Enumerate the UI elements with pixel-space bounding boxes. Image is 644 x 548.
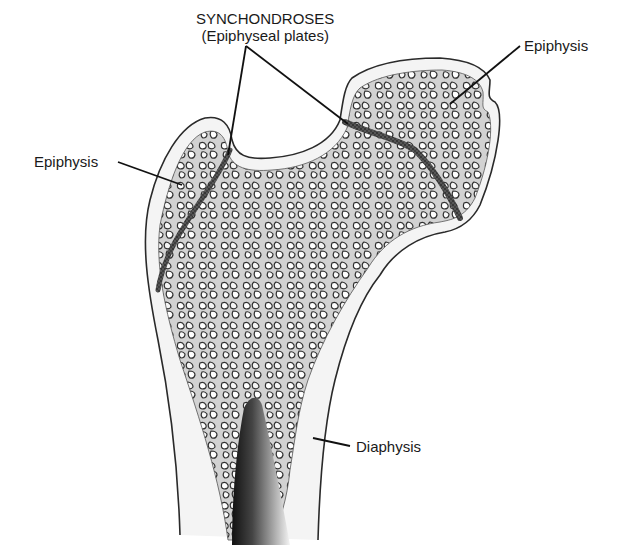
diaphysis-label: Diaphysis xyxy=(356,438,421,455)
leader-synchondroses-left xyxy=(228,46,246,155)
bone-diagram: SYNCHONDROSES (Epiphyseal plates) Epiphy… xyxy=(0,0,644,548)
synchondroses-label: SYNCHONDROSES (Epiphyseal plates) xyxy=(196,10,334,44)
epiphysis-right-label: Epiphysis xyxy=(524,37,588,54)
synchondroses-title: SYNCHONDROSES xyxy=(196,10,334,27)
leader-synchondroses-right xyxy=(246,46,348,124)
epiphysis-left-label: Epiphysis xyxy=(34,153,98,170)
synchondroses-subtitle: (Epiphyseal plates) xyxy=(196,27,334,44)
femur-illustration xyxy=(0,0,644,548)
